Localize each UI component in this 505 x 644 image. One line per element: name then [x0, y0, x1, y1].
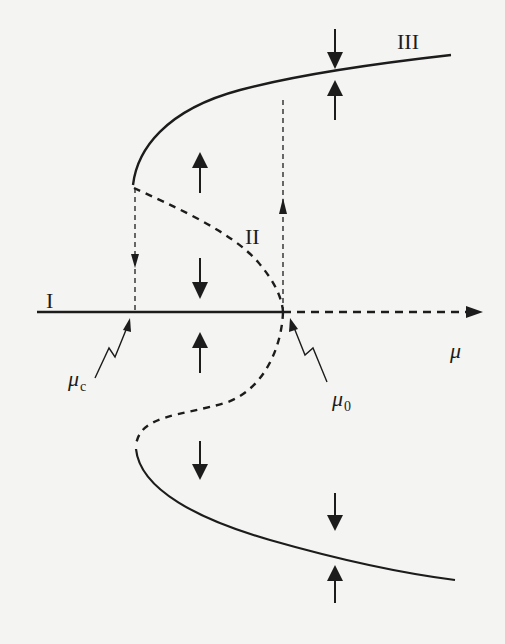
mu-axis-arrowhead-icon: [466, 306, 483, 318]
branch-lower-stable: [136, 449, 455, 580]
flow-arrow-up-icon: [192, 332, 208, 373]
flow-arrow-up-icon: [327, 80, 343, 120]
mu-0-subscript: 0: [344, 399, 351, 414]
flow-arrow-up-icon: [192, 152, 208, 193]
flow-arrow-down-icon: [327, 493, 343, 531]
mu-0-symbol: μ: [332, 386, 343, 411]
mu-0-leader-icon: [289, 318, 327, 382]
flow-arrow-down-icon: [327, 29, 343, 69]
bifurcation-diagram: III II I μ μc μ0: [0, 0, 505, 644]
mu-c-leader-icon: [95, 318, 131, 378]
branch-label-I: I: [46, 290, 53, 312]
flow-arrow-down-icon: [192, 441, 208, 480]
flow-arrow-down-icon: [192, 258, 208, 299]
branch-label-III: III: [397, 31, 419, 53]
flow-arrow-up-icon: [327, 565, 343, 603]
branch-label-II: II: [245, 226, 260, 248]
axis-label-mu: μ: [450, 340, 461, 362]
point-label-mu-c: μc: [68, 368, 86, 394]
diagram-canvas: [0, 0, 505, 644]
mu-c-subscript: c: [80, 379, 86, 394]
branch-lower-unstable: [136, 312, 283, 445]
point-label-mu-0: μ0: [332, 388, 351, 414]
jump-up-arrow-icon: [279, 198, 287, 214]
branch-upper-unstable: [134, 188, 283, 312]
branch-III-upper-stable: [133, 55, 451, 185]
mu-c-symbol: μ: [68, 366, 79, 391]
jump-down-arrow-icon: [131, 254, 139, 268]
